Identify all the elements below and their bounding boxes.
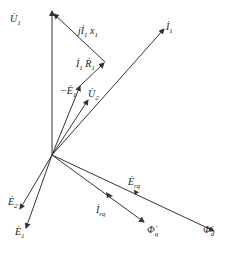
irq-arrow-icon (106, 192, 113, 198)
label-ji1x1: jİ1 x1 (76, 25, 98, 39)
label-phi-q: Φ̇q (147, 224, 159, 238)
phasor-diagram: U̇1 jİ1 x1 İ1 Ṙ1 −Ė1 U̇2 İ1 Ė2 Ė1 Ėrq İr… (0, 0, 226, 254)
label-e2: Ė2 (7, 196, 18, 210)
label-erq: Ėrq (127, 176, 141, 190)
vector-phi-d (52, 155, 214, 231)
label-phi-d: Φ̇d (203, 224, 215, 238)
label-i1r1: İ1 Ṙ1 (75, 58, 95, 72)
label-irq: İrq (95, 204, 106, 218)
label-neg-e1: −Ė1 (60, 85, 76, 99)
label-u1: U̇1 (10, 13, 21, 27)
vector-u2 (52, 100, 88, 155)
label-e1: Ė1 (14, 226, 25, 240)
label-i1: İ1 (165, 21, 173, 35)
label-u2: U̇2 (88, 88, 99, 102)
